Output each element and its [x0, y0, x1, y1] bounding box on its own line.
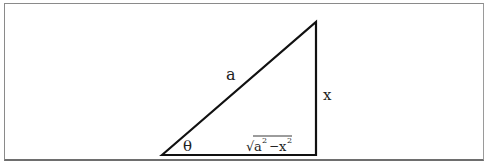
minus-sign: −	[269, 139, 279, 153]
opposite-label: x	[323, 86, 332, 104]
exponent-a: 2	[262, 136, 267, 145]
triangle-shape	[162, 22, 316, 155]
radicand-a: a	[254, 139, 262, 154]
angle-theta-label: θ	[183, 137, 192, 155]
adjacent-label-sqrt-expression: √ a 2 − x 2	[246, 136, 292, 154]
exponent-x: 2	[287, 136, 292, 145]
radicand-x: x	[279, 139, 287, 154]
right-triangle-diagram: a x θ √ a 2 − x 2	[0, 0, 489, 166]
hypotenuse-label: a	[226, 65, 236, 84]
